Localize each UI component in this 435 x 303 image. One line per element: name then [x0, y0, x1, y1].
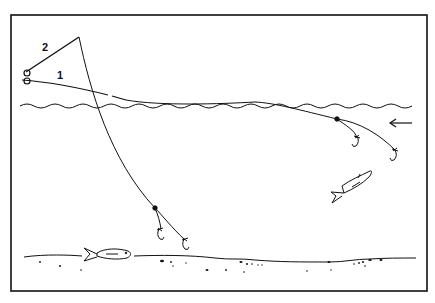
pebbles — [39, 259, 383, 273]
diagram-border — [11, 15, 427, 291]
fish-bottom-icon — [84, 248, 131, 261]
rod-2 — [26, 37, 79, 72]
shallow-rig — [335, 117, 398, 161]
hook-icon — [390, 150, 396, 161]
deep-rig — [153, 206, 189, 250]
current-arrow-icon — [390, 119, 412, 127]
line-1-continuation — [112, 96, 126, 100]
water-surface — [20, 104, 412, 108]
line-1-label: 1 — [57, 70, 63, 81]
line-2-deep — [79, 37, 185, 240]
fishing-diagram — [0, 0, 435, 303]
sea-bottom — [24, 255, 416, 262]
fish-midwater-icon — [331, 171, 372, 203]
line-2-label: 2 — [42, 42, 48, 53]
line-1 — [22, 80, 108, 95]
